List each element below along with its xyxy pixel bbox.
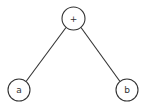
node-a-label: a (16, 85, 22, 95)
node-b: b (116, 79, 138, 101)
node-plus: + (62, 7, 85, 30)
node-a: a (8, 79, 30, 101)
node-plus-label: + (70, 14, 78, 24)
edge-root-to-a (26, 28, 66, 82)
edge-root-to-b (81, 28, 120, 82)
expression-tree-diagram: + a b (0, 0, 146, 109)
node-b-label: b (124, 85, 130, 95)
